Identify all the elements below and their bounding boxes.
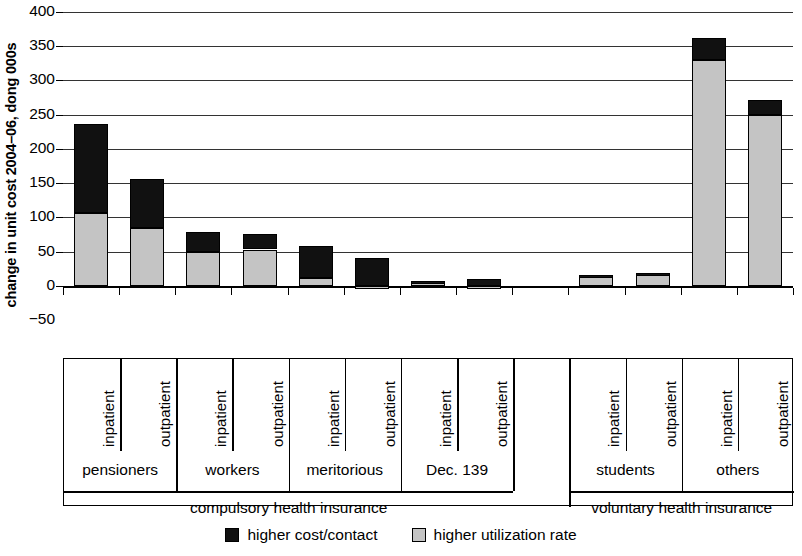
segment-cost (467, 279, 501, 286)
legend-swatch-black-icon (225, 528, 239, 542)
segment-cost (579, 275, 613, 278)
y-tick-label-50: 50 (11, 242, 55, 260)
x-sublabel-inpatient: inpatient (325, 359, 341, 447)
segment-utilization (636, 274, 670, 286)
segment-cost (186, 232, 220, 251)
group-row-divider-right (569, 491, 794, 493)
y-tick-mark-200 (56, 149, 63, 150)
segment-cost (299, 246, 333, 277)
x-tick-mark-10 (625, 288, 626, 295)
legend-item-cost: higher cost/contact (225, 526, 377, 544)
x-sublabel-outpatient: outpatient (662, 359, 678, 447)
label-cell-divider (457, 359, 459, 451)
y-tick-mark-100 (56, 217, 63, 218)
x-supergroup-label-0: compulsory health insurance (64, 499, 513, 517)
x-tick-mark-11 (681, 288, 682, 295)
y-tick-label-300: 300 (11, 70, 55, 88)
group-row-divider-left (64, 491, 513, 493)
y-tick-label-250: 250 (11, 105, 55, 123)
segment-utilization (355, 286, 389, 289)
x-group-label-4: students (569, 461, 681, 479)
x-tick-mark-2 (175, 288, 176, 295)
y-tick-mark--50 (56, 320, 63, 321)
x-sublabel-outpatient: outpatient (774, 359, 790, 447)
x-tick-mark-9 (568, 288, 569, 295)
bar-students-inpatient (579, 12, 613, 320)
x-tick-mark-6 (400, 288, 401, 295)
x-group-label-1: workers (176, 461, 288, 479)
y-tick-label-400: 400 (11, 2, 55, 20)
bar-dec139-inpatient (411, 12, 445, 320)
y-tick-mark-0 (56, 286, 63, 287)
bar-pensioners-inpatient (74, 12, 108, 320)
group-divider (513, 359, 515, 491)
legend-label-cost: higher cost/contact (247, 526, 377, 544)
x-group-label-3: Dec. 139 (401, 461, 513, 479)
segment-utilization (299, 278, 333, 286)
y-tick-mark-300 (56, 80, 63, 81)
legend-item-utilization: higher utilization rate (412, 526, 577, 544)
bar-workers-outpatient (243, 12, 277, 320)
segment-utilization (748, 115, 782, 286)
label-cell-divider (738, 359, 740, 451)
segment-cost (355, 258, 389, 285)
x-sublabel-inpatient: inpatient (718, 359, 734, 447)
x-tick-mark-0 (63, 288, 64, 295)
y-tick-label--50: −50 (11, 310, 55, 328)
x-tick-mark-7 (456, 288, 457, 295)
segment-cost (411, 281, 445, 284)
x-tick-mark-12 (737, 288, 738, 295)
label-cell-divider (345, 359, 347, 451)
bar-others-inpatient (692, 12, 726, 320)
segment-utilization (186, 252, 220, 286)
x-sublabel-outpatient: outpatient (381, 359, 397, 447)
x-group-label-0: pensioners (64, 461, 176, 479)
y-tick-label-200: 200 (11, 139, 55, 157)
y-tick-label-100: 100 (11, 207, 55, 225)
segment-utilization (243, 250, 277, 286)
y-tick-mark-350 (56, 46, 63, 47)
segment-utilization (130, 228, 164, 286)
label-cell-divider (120, 359, 122, 451)
bar-others-outpatient (748, 12, 782, 320)
supergroup-divider (569, 359, 571, 507)
bar-workers-inpatient (186, 12, 220, 320)
x-sublabel-inpatient: inpatient (212, 359, 228, 447)
x-tick-mark-1 (119, 288, 120, 295)
x-sublabel-inpatient: inpatient (605, 359, 621, 447)
segment-cost (748, 100, 782, 114)
x-tick-mark-5 (344, 288, 345, 295)
bar-meritorious-outpatient (355, 12, 389, 320)
x-group-label-2: meritorious (289, 461, 401, 479)
label-cell-divider (232, 359, 234, 451)
x-sublabel-outpatient: outpatient (493, 359, 509, 447)
x-tick-mark-8 (512, 288, 513, 295)
x-tick-mark-13 (793, 288, 794, 295)
segment-cost (692, 38, 726, 60)
x-tick-mark-3 (231, 288, 232, 295)
segment-cost (130, 179, 164, 228)
segment-cost (636, 273, 670, 276)
stacked-bar-chart: change in unit cost 2004–06, dong 000s 4… (0, 0, 802, 556)
bar-dec139-outpatient (467, 12, 501, 320)
bar-students-outpatient (636, 12, 670, 320)
bar-pensioners-outpatient (130, 12, 164, 320)
y-tick-mark-250 (56, 115, 63, 116)
y-tick-label-150: 150 (11, 173, 55, 191)
x-sublabel-inpatient: inpatient (100, 359, 116, 447)
segment-utilization (692, 60, 726, 286)
chart-legend: higher cost/contact higher utilization r… (0, 520, 802, 550)
legend-label-utilization: higher utilization rate (434, 526, 577, 544)
y-tick-label-0: 0 (11, 276, 55, 294)
x-supergroup-label-1: voluntary health insurance (569, 499, 794, 517)
y-tick-label-350: 350 (11, 36, 55, 54)
plot-area (63, 12, 793, 320)
label-cell-divider (626, 359, 628, 451)
y-tick-mark-150 (56, 183, 63, 184)
x-sublabel-inpatient: inpatient (437, 359, 453, 447)
x-tick-mark-4 (288, 288, 289, 295)
x-axis-label-table: inpatientoutpatientinpatientoutpatientin… (63, 358, 793, 506)
segment-cost (74, 124, 108, 213)
segment-utilization (74, 213, 108, 286)
y-tick-mark-400 (56, 12, 63, 13)
